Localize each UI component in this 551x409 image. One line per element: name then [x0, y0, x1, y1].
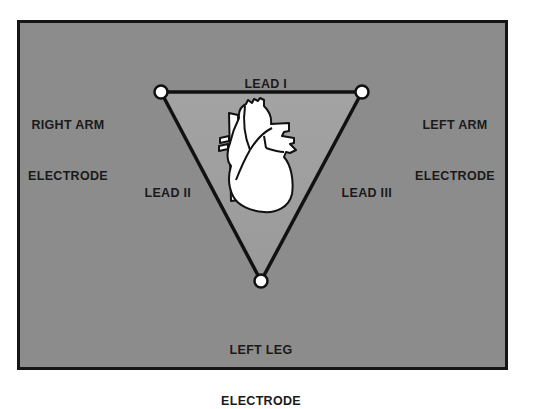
- right-arm-electrode-label: RIGHT ARM ELECTRODE: [23, 83, 113, 202]
- left-arm-label-line2: ELECTRODE: [410, 168, 500, 185]
- left-arm-electrode-label: LEFT ARM ELECTRODE: [410, 83, 500, 202]
- left-arm-electrode[interactable]: [356, 86, 369, 99]
- lead-1-label: LEAD I: [230, 59, 294, 93]
- right-arm-label-line2: ELECTRODE: [23, 168, 113, 185]
- left-leg-electrode[interactable]: [255, 275, 268, 288]
- right-arm-electrode[interactable]: [155, 86, 168, 99]
- lead-3-text: LEAD III: [342, 186, 392, 200]
- left-leg-electrode-label: LEFT LEG ELECTRODE: [216, 308, 306, 409]
- left-leg-label-line2: ELECTRODE: [216, 393, 306, 409]
- lead-3-label: LEAD III: [328, 168, 398, 202]
- right-arm-label-line1: RIGHT ARM: [23, 117, 113, 134]
- left-arm-label-line1: LEFT ARM: [410, 117, 500, 134]
- left-leg-label-line1: LEFT LEG: [216, 342, 306, 359]
- lead-2-label: LEAD II: [132, 168, 196, 202]
- lead-2-text: LEAD II: [145, 186, 192, 200]
- lead-1-text: LEAD I: [244, 77, 287, 91]
